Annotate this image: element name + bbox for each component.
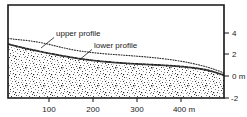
lower-profile-label: lower profile bbox=[94, 41, 138, 50]
cross-section-figure: 100 200 300 400 m 4 2 0 m -2 upper profi… bbox=[0, 0, 247, 117]
y-tick-label-2: 2 bbox=[232, 50, 237, 59]
x-tick-label-300: 300 bbox=[130, 105, 144, 114]
x-tick-label-200: 200 bbox=[86, 105, 100, 114]
y-tick-label-4: 4 bbox=[232, 29, 237, 38]
x-tick-label-400: 400 m bbox=[173, 105, 196, 114]
profile-chart-svg: 100 200 300 400 m 4 2 0 m -2 upper profi… bbox=[0, 0, 247, 117]
upper-profile-label: upper profile bbox=[56, 29, 101, 38]
y-tick-label-neg2: -2 bbox=[231, 94, 239, 103]
y-tick-label-0: 0 m bbox=[232, 72, 246, 81]
x-tick-label-100: 100 bbox=[42, 105, 56, 114]
